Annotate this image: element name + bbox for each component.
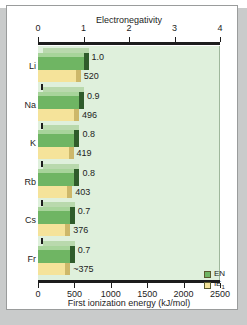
value-label-ie1-fr: ~375 bbox=[73, 264, 93, 274]
bar-ie1-side-face bbox=[67, 186, 72, 198]
value-label-en-li: 1.0 bbox=[92, 52, 105, 62]
legend-label-en: EN bbox=[214, 270, 225, 278]
value-label-en-cs: 0.7 bbox=[78, 206, 91, 216]
value-label-en-fr: 0.7 bbox=[78, 245, 91, 255]
category-label-cs: Cs bbox=[13, 215, 36, 225]
top-axis: 01234 bbox=[38, 42, 220, 45]
top-axis-tick-label: 2 bbox=[126, 23, 131, 33]
chart-figure: Electronegativity 01234 0500100015002000… bbox=[6, 5, 238, 310]
bar-ie1-cs[interactable] bbox=[38, 224, 65, 236]
bar-group-cs[interactable] bbox=[38, 202, 75, 236]
bar-ie1-li[interactable] bbox=[38, 70, 76, 82]
bottom-axis: 05001000150020002500 bbox=[38, 280, 220, 283]
legend-label-ie1: IE1 bbox=[214, 280, 225, 291]
bar-en-highlight bbox=[38, 53, 84, 57]
value-label-en-k: 0.8 bbox=[82, 129, 95, 139]
value-label-en-rb: 0.8 bbox=[82, 168, 95, 178]
bar-ie1-fr[interactable] bbox=[38, 263, 65, 275]
top-axis-tick bbox=[129, 37, 130, 42]
category-separator-tick bbox=[41, 161, 43, 167]
value-label-ie1-na: 496 bbox=[82, 110, 97, 120]
value-label-ie1-rb: 403 bbox=[75, 187, 90, 197]
chart-legend: EN IE1 bbox=[204, 270, 225, 293]
bar-en-side-face bbox=[70, 246, 75, 263]
bar-en-side-face bbox=[84, 53, 89, 70]
bar-en-side-face bbox=[79, 92, 84, 109]
legend-label-ie1-sub: 1 bbox=[221, 284, 224, 290]
bar-group-na[interactable] bbox=[38, 87, 84, 121]
category-label-k: K bbox=[13, 138, 36, 148]
category-label-na: Na bbox=[13, 100, 36, 110]
bottom-axis-tick bbox=[111, 283, 112, 288]
bar-en-highlight bbox=[38, 130, 74, 134]
category-label-li: Li bbox=[13, 61, 36, 71]
bar-ie1-side-face bbox=[76, 70, 81, 82]
legend-swatch-en-icon bbox=[204, 271, 211, 278]
category-separator-tick bbox=[41, 238, 43, 244]
bar-ie1-side-face bbox=[74, 109, 79, 121]
value-label-ie1-li: 520 bbox=[84, 71, 99, 81]
bar-group-li[interactable] bbox=[38, 48, 89, 82]
top-axis-tick bbox=[175, 37, 176, 42]
category-separator-tick bbox=[41, 123, 43, 129]
bar-group-fr[interactable] bbox=[38, 241, 75, 275]
bar-ie1-na[interactable] bbox=[38, 109, 74, 121]
top-axis-tick-label: 4 bbox=[217, 23, 222, 33]
bar-en-highlight bbox=[38, 169, 74, 173]
value-label-en-na: 0.9 bbox=[87, 91, 100, 101]
bar-ie1-side-face bbox=[65, 263, 70, 275]
bottom-axis-tick bbox=[38, 283, 39, 288]
bar-en-highlight bbox=[38, 92, 79, 96]
category-separator-tick bbox=[41, 84, 43, 90]
top-axis-tick bbox=[84, 37, 85, 42]
category-label-fr: Fr bbox=[13, 254, 36, 264]
bar-en-side-face bbox=[70, 207, 75, 224]
bottom-axis-tick bbox=[74, 283, 75, 288]
bar-en-highlight bbox=[38, 207, 70, 211]
bar-group-rb[interactable] bbox=[38, 164, 79, 198]
top-axis-tick-label: 0 bbox=[35, 23, 40, 33]
category-separator-tick bbox=[41, 200, 43, 206]
bar-ie1-side-face bbox=[65, 224, 70, 236]
top-axis-tick bbox=[38, 37, 39, 42]
top-axis-tick-label: 1 bbox=[81, 23, 86, 33]
legend-item-en: EN bbox=[204, 270, 225, 278]
bar-ie1-k[interactable] bbox=[38, 147, 69, 159]
legend-swatch-ie1-icon bbox=[204, 282, 211, 289]
bottom-axis-tick bbox=[184, 283, 185, 288]
category-label-rb: Rb bbox=[13, 177, 36, 187]
bar-ie1-side-face bbox=[69, 147, 74, 159]
bottom-axis-title: First ionization energy (kJ/mol) bbox=[21, 298, 237, 308]
bar-ie1-rb[interactable] bbox=[38, 186, 67, 198]
bar-en-side-face bbox=[74, 130, 79, 147]
bar-en-highlight bbox=[38, 246, 70, 250]
value-label-ie1-k: 419 bbox=[77, 148, 92, 158]
bottom-axis-tick bbox=[147, 283, 148, 288]
bar-en-side-face bbox=[74, 169, 79, 186]
top-axis-tick bbox=[220, 37, 221, 42]
top-axis-tick-label: 3 bbox=[172, 23, 177, 33]
legend-item-ie1: IE1 bbox=[204, 280, 225, 291]
value-label-ie1-cs: 376 bbox=[73, 225, 88, 235]
bar-group-k[interactable] bbox=[38, 125, 79, 159]
